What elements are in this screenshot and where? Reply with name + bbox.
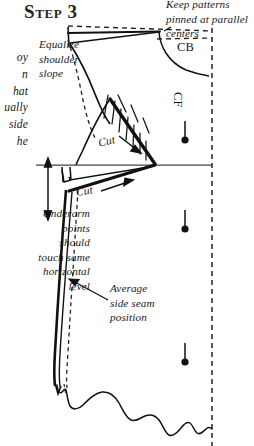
pin-marker-2 — [181, 210, 188, 233]
cut-wedge-upper-left-edge — [76, 99, 110, 165]
pattern-diagram-page: Step 3 oy n hat ually side he Equalize s… — [0, 0, 254, 446]
callout-equalize-shoulder-slope: Equalize shoulder slope — [39, 37, 105, 81]
label-cut-lower: Cut — [75, 183, 94, 199]
callout-keep-patterns-pinned: Keep patterns pinned at parallel centers — [166, 0, 254, 41]
page-title: Step 3 — [24, 1, 78, 23]
pin-marker-3 — [181, 343, 188, 366]
wavy-hem-edge — [57, 385, 212, 436]
callout-average-side-seam: Average side seam position — [110, 281, 186, 325]
callout-underarm-points: Underarm points should touch same horizo… — [2, 206, 90, 293]
label-center-back: CB — [177, 40, 194, 54]
underarm-notch-left — [62, 167, 63, 182]
underarm-notch-right — [70, 167, 71, 180]
pin-marker-1 — [181, 121, 188, 144]
label-center-front: CF — [171, 92, 185, 108]
clipped-body-text: oy n hat ually side he — [0, 50, 28, 151]
cut-wedge-hatching — [104, 95, 149, 160]
